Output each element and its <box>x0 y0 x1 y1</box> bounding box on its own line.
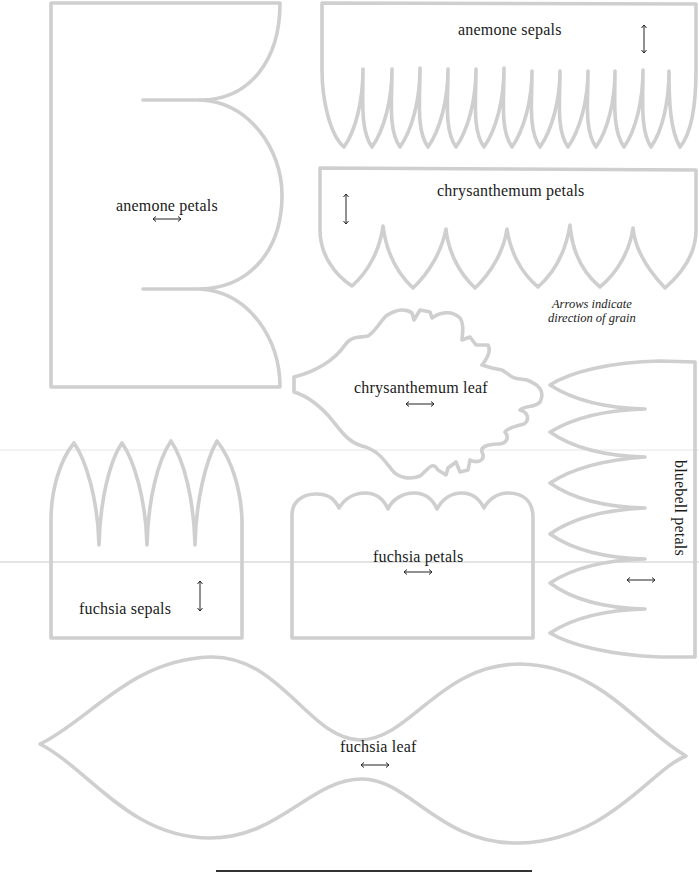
bluebell-petals-label: bluebell petals <box>671 460 689 556</box>
grain-note-line1: Arrows indicate <box>548 297 636 311</box>
fuchsia-petals-label: fuchsia petals <box>373 548 463 566</box>
chrysanthemum-leaf-label: chrysanthemum leaf <box>354 379 488 397</box>
fuchsia-leaf-label: fuchsia leaf <box>340 738 417 756</box>
chrysanthemum-petals-label: chrysanthemum petals <box>437 182 585 200</box>
grain-horizontal-icon <box>403 568 433 576</box>
grain-note: Arrows indicate direction of grain <box>548 297 636 325</box>
anemone-sepals-label: anemone sepals <box>458 21 562 39</box>
grain-horizontal-icon <box>152 215 182 223</box>
grain-note-line2: direction of grain <box>548 311 636 325</box>
grain-vertical-icon <box>640 24 648 54</box>
grain-vertical-icon <box>196 580 204 612</box>
grain-horizontal-icon <box>626 576 656 584</box>
page-rule <box>216 870 532 872</box>
grain-horizontal-icon <box>405 400 435 408</box>
fuchsia-sepals-label: fuchsia sepals <box>79 600 171 618</box>
grain-vertical-icon <box>342 193 350 225</box>
grain-horizontal-icon <box>360 761 390 769</box>
anemone-petals-shape <box>51 3 282 387</box>
anemone-petals-label: anemone petals <box>116 197 218 215</box>
